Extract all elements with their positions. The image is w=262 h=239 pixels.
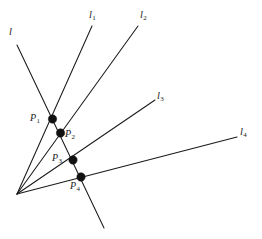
ray-l4 xyxy=(17,137,237,194)
line-label-l2-subscript: 2 xyxy=(143,14,147,22)
point-p3 xyxy=(69,156,77,164)
line-label-l: l xyxy=(9,27,12,38)
line-label-l3-subscript: 3 xyxy=(160,95,164,103)
line-label-l4-subscript: 4 xyxy=(243,131,247,139)
line-label-l4: l4 xyxy=(240,127,246,138)
point-label-p3-subscript: 3 xyxy=(58,157,62,165)
point-label-p1: P1 xyxy=(30,113,40,123)
line-label-l2: l2 xyxy=(140,10,146,21)
point-label-p2: P2 xyxy=(65,129,75,139)
point-p1 xyxy=(48,115,56,123)
point-p4 xyxy=(77,173,85,181)
geometry-figure: l l1 l2 l3 l4 P1 P2 P3 P4 xyxy=(0,0,262,239)
line-label-l3: l3 xyxy=(157,91,163,102)
ray-l2 xyxy=(17,26,138,194)
point-label-p2-subscript: 2 xyxy=(71,133,75,141)
line-label-l1-subscript: 1 xyxy=(92,14,96,22)
point-label-p4: P4 xyxy=(70,181,80,191)
point-label-p4-subscript: 4 xyxy=(76,185,80,193)
rays-group xyxy=(17,26,237,194)
point-p2 xyxy=(56,129,64,137)
line-label-l1: l1 xyxy=(89,10,95,21)
point-label-p3: P3 xyxy=(52,153,62,163)
point-label-p1-subscript: 1 xyxy=(36,117,40,125)
